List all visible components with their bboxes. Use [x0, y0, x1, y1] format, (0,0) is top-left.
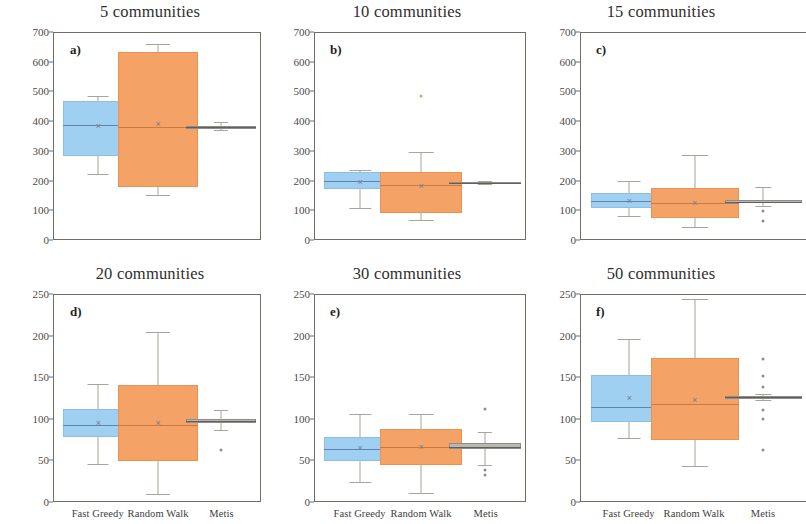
panel-a: 5 communitiesNumber of Nodes010020030040…	[0, 0, 272, 262]
outlier-point	[219, 448, 222, 451]
whisker-cap-upper	[88, 384, 109, 385]
whisker-cap-upper	[214, 122, 228, 123]
y-tick-label: 600	[294, 56, 311, 68]
whisker-cap-upper	[618, 181, 641, 182]
whisker-cap-lower	[756, 206, 771, 207]
box-group	[725, 295, 802, 501]
whisker-lower	[694, 440, 695, 466]
whisker-cap-upper	[349, 170, 370, 171]
mean-marker: ×	[692, 396, 697, 405]
whisker-cap-upper	[756, 187, 771, 188]
panel-letter: e)	[330, 304, 340, 320]
whisker-lower	[98, 437, 99, 464]
whisker-lower	[98, 156, 99, 174]
y-tick-label: 300	[560, 145, 577, 157]
whisker-upper	[485, 432, 486, 444]
whisker-cap-lower	[618, 216, 641, 217]
plot-inner: ××	[315, 33, 525, 239]
plot-inner: ××	[315, 295, 525, 501]
plot-area: ××	[580, 32, 806, 240]
median-line	[186, 421, 256, 422]
whisker-cap-upper	[478, 432, 492, 433]
panel-title: 15 communities	[542, 2, 798, 22]
whisker-upper	[629, 181, 630, 194]
whisker-upper	[98, 384, 99, 409]
whisker-cap-lower	[146, 494, 170, 495]
whisker-cap-upper	[88, 96, 109, 97]
x-axis-label: Random Walk	[128, 508, 189, 519]
y-tick-label: 200	[33, 330, 50, 342]
median-line	[449, 183, 520, 184]
mean-marker: ×	[692, 198, 697, 207]
outlier-point	[762, 219, 765, 222]
panel-d: 20 communitiesNumber of Nodes05010015020…	[0, 262, 272, 524]
panel-letter: c)	[596, 42, 606, 58]
plot-area: ××	[53, 294, 261, 502]
x-axis-label: Fast Greedy	[603, 508, 655, 519]
whisker-upper	[220, 410, 221, 418]
outlier-point	[762, 417, 765, 420]
y-tick-label: 100	[294, 413, 311, 425]
y-tick-label: 200	[294, 175, 311, 187]
y-tick-label: 700	[294, 26, 311, 38]
panel-title: 30 communities	[272, 264, 542, 284]
y-axis-ticks: 050100150200250	[18, 294, 49, 502]
mean-marker: ×	[357, 444, 362, 453]
y-tick-label: 150	[560, 371, 577, 383]
y-tick-label: 400	[33, 115, 50, 127]
whisker-cap-lower	[214, 430, 228, 431]
whisker-upper	[360, 414, 361, 437]
y-tick-label: 400	[560, 115, 577, 127]
mean-marker: ×	[155, 120, 160, 129]
y-tick-label: 100	[33, 413, 50, 425]
y-tick-label: 500	[294, 85, 311, 97]
box-group	[186, 33, 256, 239]
whisker-lower	[421, 465, 422, 493]
y-tick-label: 200	[560, 175, 577, 187]
y-tick-label: 50	[38, 454, 49, 466]
mean-marker: ×	[96, 418, 101, 427]
whisker-cap-upper	[214, 410, 228, 411]
y-tick-label: 50	[565, 454, 576, 466]
whisker-cap-lower	[214, 130, 228, 131]
x-axis-label: Fast Greedy	[72, 508, 124, 519]
whisker-upper	[763, 187, 764, 201]
whisker-lower	[158, 461, 159, 494]
whisker-cap-upper	[349, 414, 370, 415]
whisker-lower	[694, 218, 695, 227]
whisker-cap-upper	[681, 299, 707, 300]
plot-inner: ××	[54, 295, 260, 501]
y-tick-label: 500	[33, 85, 50, 97]
whisker-cap-lower	[478, 465, 492, 466]
panel-letter: f)	[596, 304, 605, 320]
y-tick-label: 300	[33, 145, 50, 157]
whisker-cap-lower	[756, 400, 771, 401]
y-axis-ticks: 0100200300400500600700	[546, 32, 576, 240]
outlier-point	[762, 409, 765, 412]
outlier-point	[762, 374, 765, 377]
x-axis-label: Metis	[751, 508, 775, 519]
whisker-cap-lower	[681, 227, 707, 228]
whisker-cap-upper	[409, 414, 434, 415]
outlier-point	[484, 407, 487, 410]
median-line	[725, 202, 802, 203]
panel-title: 5 communities	[0, 2, 272, 22]
plot-area: ××	[314, 294, 526, 502]
panel-letter: a)	[70, 42, 81, 58]
y-axis-ticks: 0100200300400500600700	[18, 32, 49, 240]
whisker-upper	[629, 339, 630, 374]
y-tick-label: 200	[294, 330, 311, 342]
y-tick-label: 150	[294, 371, 311, 383]
outlier-point	[762, 448, 765, 451]
whisker-cap-lower	[409, 220, 434, 221]
x-axis-label: Random Walk	[664, 508, 725, 519]
whisker-lower	[421, 213, 422, 220]
whisker-upper	[421, 414, 422, 429]
x-axis-label: Random Walk	[391, 508, 452, 519]
y-axis-ticks: 050100150200250	[546, 294, 576, 502]
plot-area: ××	[314, 32, 526, 240]
x-axis-label: Metis	[209, 508, 233, 519]
y-tick-label: 250	[560, 288, 577, 300]
y-tick-label: 200	[33, 175, 50, 187]
